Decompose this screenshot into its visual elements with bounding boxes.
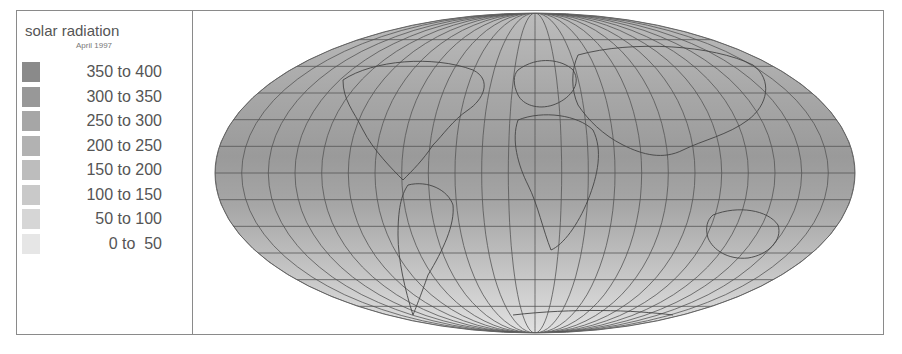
legend-label: 250 to 300: [52, 112, 162, 130]
legend-title: solar radiation: [25, 22, 119, 39]
legend-swatch: [22, 136, 40, 156]
legend-swatch: [22, 185, 40, 205]
legend-swatch: [22, 62, 40, 82]
legend-label: 200 to 250: [52, 137, 162, 155]
legend-item: 100 to 150: [22, 183, 162, 208]
legend-item: 300 to 350: [22, 85, 162, 110]
legend-label: 350 to 400: [52, 63, 162, 81]
legend-swatch: [22, 111, 40, 131]
legend-panel: solar radiation April 1997 350 to 400 30…: [16, 10, 193, 335]
legend-item: 150 to 200: [22, 158, 162, 183]
legend-item: 200 to 250: [22, 134, 162, 159]
legend-label: 50 to 100: [52, 210, 162, 228]
legend-swatch: [22, 160, 40, 180]
legend-label: 300 to 350: [52, 88, 162, 106]
radiation-field: [193, 10, 883, 335]
world-map: [193, 10, 883, 335]
legend-swatch: [22, 87, 40, 107]
legend-item: 0 to 50: [22, 232, 162, 257]
legend-item: 350 to 400: [22, 60, 162, 85]
legend-subtitle: April 1997: [76, 41, 112, 50]
legend-label: 150 to 200: [52, 161, 162, 179]
legend-label: 0 to 50: [52, 235, 162, 253]
legend-item: 250 to 300: [22, 109, 162, 134]
legend-swatch: [22, 209, 40, 229]
legend-label: 100 to 150: [52, 186, 162, 204]
legend-swatch: [22, 234, 40, 254]
legend-item: 50 to 100: [22, 207, 162, 232]
legend-list: 350 to 400 300 to 350 250 to 300 200 to …: [22, 60, 162, 256]
